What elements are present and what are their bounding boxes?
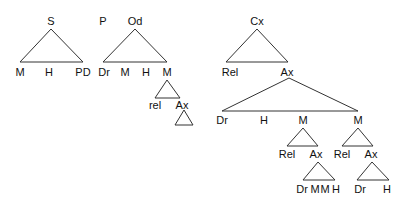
triangle-od [103,29,167,62]
node-od-m2: M [162,66,171,78]
node-p: P [99,15,106,27]
node-m2ax-dr: Dr [354,183,366,195]
node-m1ax-m1: M [310,183,319,195]
node-cx: Cx [250,15,263,27]
triangle-od-ax [175,110,193,125]
triangle-od-m [155,80,180,98]
node-s-pd: PD [75,66,90,78]
triangle-m2-ax [357,162,389,180]
node-ax-m1: M [298,114,307,126]
node-ax-dr: Dr [216,114,228,126]
triangle-s [20,29,83,62]
node-od-dr: Dr [98,66,110,78]
node-od-m1: M [120,66,129,78]
triangle-cx-ax [222,78,358,111]
triangle-m1 [287,128,318,146]
node-m1-rel: Rel [279,148,296,160]
triangle-m2 [342,128,373,146]
node-s-h: H [45,66,53,78]
node-s: S [47,15,54,27]
node-m1ax-h: H [332,183,340,195]
node-od: Od [128,15,143,27]
tree-lines [0,0,406,204]
node-m1-ax: Ax [310,148,323,160]
triangle-m1-ax [303,162,335,180]
node-cx-rel: Rel [222,66,239,78]
node-cx-ax: Ax [281,66,294,78]
node-s-m: M [15,66,24,78]
node-m1ax-m2: M [320,183,329,195]
node-m1ax-dr: Dr [296,183,308,195]
node-ax-h: H [260,114,268,126]
node-od-rel: rel [149,99,161,111]
triangle-cx [226,29,288,62]
node-m2-ax: Ax [365,148,378,160]
node-m2-rel: Rel [334,148,351,160]
node-m2ax-h: H [383,183,391,195]
node-ax-m2: M [353,114,362,126]
node-od-ax: Ax [176,99,189,111]
node-od-h: H [142,66,150,78]
